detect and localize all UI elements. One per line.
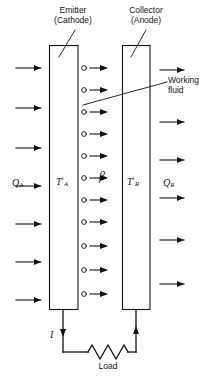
electron-row <box>82 153 108 159</box>
heat-input-symbol: QA <box>12 178 23 190</box>
electron-row <box>82 87 108 93</box>
electron-row <box>82 243 108 249</box>
collector-label-line2: (Anode) <box>116 16 176 26</box>
heat-rejected-subscript: R <box>170 181 174 188</box>
emitter-temperature-subscript: A <box>64 180 68 187</box>
electron-row <box>82 109 108 115</box>
current-arrow-down <box>60 329 66 337</box>
electron-row <box>82 131 108 137</box>
heat-rejected-symbol: QR <box>163 178 174 190</box>
current-arrow-up <box>133 326 139 334</box>
collector-temperature-subscript: R <box>135 180 139 187</box>
electron-row <box>82 197 108 203</box>
heat-input-subscript: A <box>19 181 23 188</box>
collector-leader-line <box>131 30 146 57</box>
collector-label: Collector (Anode) <box>116 6 176 25</box>
emitter-label: Emitter (Cathode) <box>44 6 102 25</box>
electron-row <box>82 267 108 273</box>
load-label: Load <box>78 362 138 372</box>
load-resistor <box>88 345 128 359</box>
working-fluid-leader-line <box>83 82 167 105</box>
working-fluid-label-line2: fluid <box>168 86 199 96</box>
figure-canvas: Emitter (Cathode) Collector (Anode) Work… <box>0 0 216 377</box>
emitter-temperature-symbol: T°A <box>56 176 68 188</box>
electron-row <box>82 291 108 297</box>
current-symbol-label: I <box>50 330 53 340</box>
electron-row <box>82 219 108 225</box>
beta-symbol: β <box>99 172 105 182</box>
load-circuit <box>60 310 139 359</box>
electron-row <box>82 65 108 71</box>
schematic-drawing <box>0 0 216 377</box>
emitter-leader-line <box>59 30 75 57</box>
collector-temperature-symbol: T°R <box>127 176 139 188</box>
working-fluid-label: Working fluid <box>168 76 199 95</box>
emitter-label-line2: (Cathode) <box>44 16 102 26</box>
